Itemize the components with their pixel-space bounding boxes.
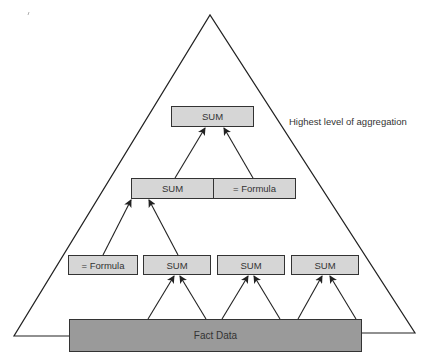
- arrow-fact-to-sum-3b: [330, 276, 356, 319]
- bottom-sum-box-2: SUM: [217, 255, 285, 275]
- aggregation-annotation: Highest level of aggregation: [289, 116, 407, 127]
- arrow-bottom-sum-to-middle-sum: [149, 200, 178, 255]
- arrow-fact-to-sum-1b: [180, 276, 206, 319]
- bottom-formula-box: = Formula: [68, 255, 138, 275]
- arrow-fact-to-sum-2a: [222, 276, 248, 319]
- bottom-sum-label-3: SUM: [314, 260, 335, 271]
- arrow-bottom-formula-to-middle-sum: [103, 200, 131, 255]
- middle-sum-label: SUM: [162, 183, 183, 194]
- middle-formula-label: = Formula: [233, 183, 276, 194]
- arrow-fact-to-sum-3a: [298, 276, 322, 319]
- middle-sum-box: SUM: [131, 178, 214, 199]
- arrow-middle-formula-to-top: [224, 128, 253, 178]
- bottom-sum-box-1: SUM: [143, 255, 211, 275]
- stray-mark: [28, 12, 29, 15]
- fact-data-label: Fact Data: [194, 330, 237, 341]
- arrow-fact-to-sum-1a: [148, 276, 174, 319]
- pyramid-outline: [14, 15, 415, 336]
- arrow-middle-sum-to-top: [175, 128, 205, 178]
- middle-formula-box: = Formula: [213, 178, 296, 199]
- top-sum-box: SUM: [171, 106, 254, 127]
- bottom-sum-box-3: SUM: [291, 255, 359, 275]
- arrow-fact-to-sum-2b: [254, 276, 280, 319]
- bottom-sum-label-2: SUM: [240, 260, 261, 271]
- bottom-formula-label: = Formula: [81, 260, 124, 271]
- bottom-sum-label-1: SUM: [166, 260, 187, 271]
- fact-data-box: Fact Data: [69, 319, 362, 352]
- top-sum-label: SUM: [202, 111, 223, 122]
